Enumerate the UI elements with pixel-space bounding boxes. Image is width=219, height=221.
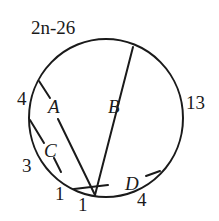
circle xyxy=(29,39,183,197)
arc-label-right: 13 xyxy=(186,92,205,113)
chord-label-d: D xyxy=(124,173,139,194)
arc-label-bottom-left: 1 xyxy=(55,183,65,204)
arc-label-upper-left: 4 xyxy=(17,88,27,109)
chord-label-c: C xyxy=(44,140,57,161)
chord-label-b: B xyxy=(108,96,120,117)
arc-label-left: 3 xyxy=(22,155,32,176)
arc-label-top: 2n-26 xyxy=(31,17,75,38)
arc-label-bottom: 1 xyxy=(78,194,88,215)
circle-diagram: 2n-26 4 13 3 1 1 4 A B C D xyxy=(0,0,219,221)
chord-label-a: A xyxy=(46,96,60,117)
